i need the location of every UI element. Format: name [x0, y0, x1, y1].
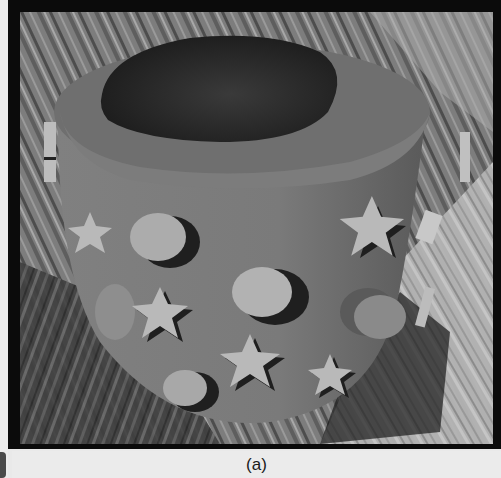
- rendered-photo: [20, 12, 493, 444]
- figure-caption: (a): [12, 455, 501, 475]
- edge-mark: [0, 452, 6, 478]
- left-margin: [0, 0, 8, 478]
- caption-area: (a): [12, 451, 501, 478]
